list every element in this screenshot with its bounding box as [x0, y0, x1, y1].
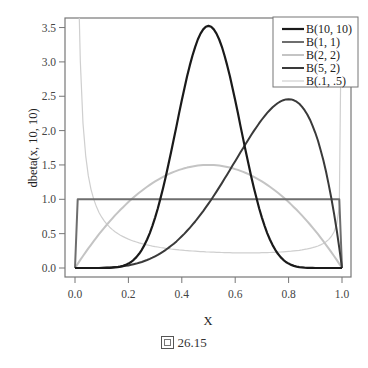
legend-label: B(1, 1) [306, 35, 340, 49]
series-line-b-1-1 [75, 199, 342, 268]
y-tick-label: 0.5 [42, 228, 57, 240]
legend: B(10, 10)B(1, 1)B(2, 2)B(5, 2)B(.1, .5) [273, 17, 358, 88]
figure-icon [161, 336, 174, 349]
caption-text: 26.15 [177, 335, 206, 350]
y-tick-label: 2.0 [42, 125, 57, 137]
y-tick-label: 2.5 [42, 90, 57, 102]
beta-density-chart: 0.00.20.40.60.81.0 0.00.51.01.52.02.53.0… [0, 0, 368, 330]
x-tick-label: 0.4 [175, 288, 190, 300]
y-tick-label: 1.5 [42, 159, 57, 171]
x-tick-label: 0.2 [121, 288, 136, 300]
legend-label: B(2, 2) [306, 48, 340, 62]
figure-caption: 26.15 [0, 335, 368, 351]
x-tick-label: 0.0 [68, 288, 83, 300]
series-line-b-5-2 [75, 99, 342, 268]
x-tick-label: 0.8 [281, 288, 296, 300]
y-tick-label: 0.0 [42, 262, 57, 274]
y-tick-label: 1.0 [42, 193, 57, 205]
y-axis: 0.00.51.01.52.02.53.03.5 [42, 22, 65, 274]
legend-label: B(.1, .5) [306, 74, 346, 88]
y-tick-label: 3.5 [42, 22, 57, 34]
x-tick-label: 1.0 [335, 288, 350, 300]
x-axis-title: X [203, 314, 212, 328]
x-tick-label: 0.6 [228, 288, 243, 300]
legend-label: B(5, 2) [306, 61, 340, 75]
y-axis-title: dbeta(x, 10, 10) [26, 108, 40, 187]
legend-label: B(10, 10) [306, 22, 352, 36]
y-tick-label: 3.0 [42, 56, 57, 68]
x-axis: 0.00.20.40.60.81.0 [68, 277, 350, 300]
